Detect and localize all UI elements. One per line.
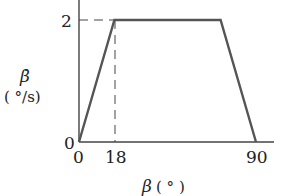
x-axis-label-symbol: β: [141, 176, 152, 196]
trapezoidal-velocity-chart: 2 0 0 18 90 β̇ ( °/s) β ( ° ): [0, 0, 283, 196]
velocity-profile-line: [79, 20, 256, 142]
x-tick-label-0: 0: [73, 147, 84, 167]
x-axis-label-unit: ( ° ): [156, 178, 185, 196]
y-axis-label-symbol: β̇: [19, 66, 30, 86]
chart-svg: 2 0 0 18 90 β̇ ( °/s) β ( ° ): [0, 0, 283, 196]
x-tick-label-18: 18: [105, 147, 127, 167]
x-tick-label-90: 90: [246, 147, 268, 167]
y-axis-label-unit: ( °/s): [4, 88, 41, 106]
y-tick-label-2: 2: [61, 11, 72, 31]
